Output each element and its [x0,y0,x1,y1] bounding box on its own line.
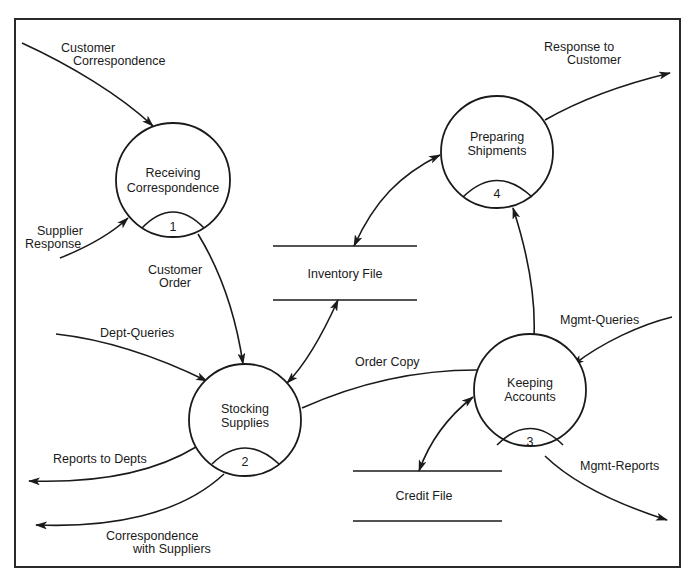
process-keeping-accounts: Keeping Accounts 3 [474,334,586,449]
process-1-number: 1 [170,220,177,234]
process-stocking-supplies: Stocking Supplies 2 [189,364,301,476]
data-flow-diagram: Inventory File Credit File Receiving Cor… [0,0,692,582]
process-1-name-line1: Receiving [146,166,201,180]
process-preparing-shipments: Preparing Shipments 4 [441,96,553,208]
label-response-to-customer-2: Customer [567,53,621,67]
flow-customer-order [198,234,243,364]
process-2-name-line2: Supplies [221,416,269,430]
flow-credit-accounts [419,397,473,471]
process-receiving-correspondence: Receiving Correspondence 1 [116,123,230,237]
diagram-frame [15,19,680,567]
label-dept-queries: Dept-Queries [100,326,174,340]
process-2-name-line1: Stocking [221,402,269,416]
flow-response-to-customer [545,73,670,120]
data-store-inventory-file: Inventory File [273,246,417,300]
process-3-name-line1: Keeping [507,376,553,390]
label-customer-correspondence-1: Customer [61,41,115,55]
label-correspondence-with-suppliers-2: with Suppliers [132,542,211,556]
process-2-number: 2 [242,455,249,469]
flow-order-copy [302,370,483,408]
flow-accounts-to-shipments [513,208,534,336]
inventory-file-label: Inventory File [307,267,382,281]
label-mgmt-queries: Mgmt-Queries [560,313,639,327]
data-store-credit-file: Credit File [353,471,502,521]
label-correspondence-with-suppliers-1: Correspondence [106,529,198,543]
flow-inventory-stocking [287,300,338,383]
credit-file-label: Credit File [396,489,453,503]
label-mgmt-reports: Mgmt-Reports [580,459,659,473]
label-order-copy: Order Copy [355,355,420,369]
label-customer-order-1: Customer [148,263,202,277]
label-reports-to-depts: Reports to Depts [53,452,147,466]
process-1-name-line2: Correspondence [127,181,219,195]
flow-dept-queries [56,334,207,381]
label-customer-order-2: Order [159,276,191,290]
label-supplier-response-1: Supplier [37,224,83,238]
process-3-name-line2: Accounts [504,390,555,404]
flow-inventory-shipments [354,155,440,246]
label-supplier-response-2: Response [25,237,81,251]
process-4-number: 4 [494,187,501,201]
label-response-to-customer-1: Response to [544,40,614,54]
process-3-number: 3 [527,435,534,449]
process-4-name-line2: Shipments [467,144,526,158]
label-customer-correspondence-2: Correspondence [73,54,165,68]
process-4-name-line1: Preparing [470,130,524,144]
